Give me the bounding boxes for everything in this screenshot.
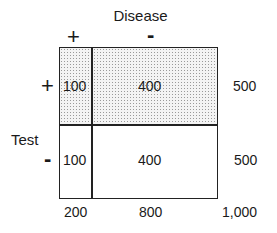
column-divider xyxy=(91,48,93,198)
test-positive-header: + xyxy=(41,75,54,97)
row-total-test-negative: 500 xyxy=(234,153,257,167)
disease-axis-label: Disease xyxy=(0,7,277,24)
test-negative-header: - xyxy=(44,148,51,170)
test-axis-label: Test xyxy=(11,131,39,148)
cell-false-negative: 100 xyxy=(63,153,86,167)
cell-true-negative: 400 xyxy=(138,153,161,167)
row-total-test-positive: 500 xyxy=(233,79,256,93)
disease-negative-header: - xyxy=(147,24,154,46)
grand-total: 1,000 xyxy=(222,205,257,219)
table-box xyxy=(59,47,218,199)
disease-positive-header: + xyxy=(67,26,80,48)
column-total-disease-positive: 200 xyxy=(64,205,87,219)
column-total-disease-negative: 800 xyxy=(139,205,162,219)
row-divider xyxy=(60,124,217,126)
cell-false-positive: 400 xyxy=(138,79,161,93)
cell-true-positive: 100 xyxy=(63,79,86,93)
